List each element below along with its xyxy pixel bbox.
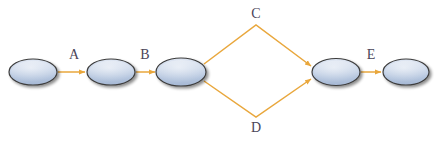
edge-c-line [204,25,311,66]
diagram-graphics [0,0,438,143]
node-2[interactable] [87,59,135,85]
node-1[interactable] [9,59,57,85]
edge-label-e: E [367,48,376,62]
edge-label-c: C [251,7,260,21]
diagram-canvas: A B C D E [0,0,438,143]
edge-d-line [204,79,311,117]
node-3-highlight [158,60,204,84]
node-4-highlight [314,60,358,83]
node-4[interactable] [312,59,360,86]
edge-label-a: A [69,48,79,62]
node-5-highlight [385,61,427,83]
node-3[interactable] [156,58,206,86]
edge-label-b: B [140,48,149,62]
node-5[interactable] [383,59,429,85]
node-1-highlight [11,61,55,83]
edge-label-d: D [251,121,261,135]
node-2-highlight [89,61,133,83]
